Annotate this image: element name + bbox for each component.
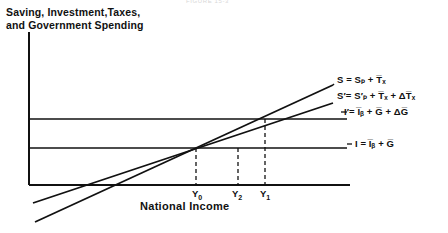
tick-label-Y2: Y2 [232,188,242,201]
x-axis-title: National Income [140,200,229,212]
curve-label-I-prime: I′= I̅ᵦ + G̅ + ΔG̅ [344,106,408,117]
economics-figure: FIGURE 15-3 Saving, Investment,Taxes, an… [0,0,448,233]
leader-line-S [333,84,334,85]
tick-label-Y0: Y0 [192,188,202,201]
tick-label-Y1: Y1 [260,188,270,201]
curve-S-prime [33,103,333,203]
tick-sub-Y1: 1 [266,194,270,201]
curve-label-S: S = Sₚ + T̅ₓ [337,74,386,85]
tick-sub-Y2: 2 [238,194,242,201]
curve-label-S-prime: S′= S′ₚ + T̅ₓ + ΔT̅ₓ [337,90,415,101]
curve-label-I: I = I̅ᵦ + G̅ [355,138,394,149]
